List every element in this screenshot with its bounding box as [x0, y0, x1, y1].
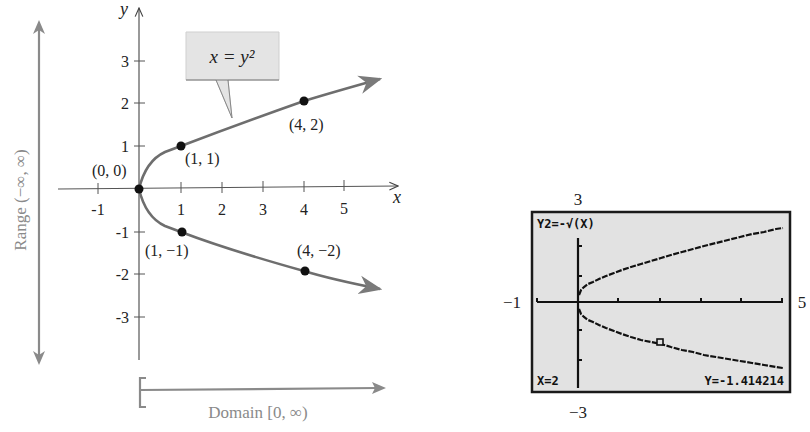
window-xmin-label: −1 [503, 293, 521, 312]
window-xmax-label: 5 [798, 293, 807, 312]
svg-text:-3: -3 [116, 309, 129, 326]
svg-text:-1: -1 [116, 224, 129, 241]
svg-text:2: 2 [121, 95, 129, 112]
svg-text:4: 4 [300, 201, 308, 218]
window-ymax-label: 3 [574, 190, 583, 209]
svg-text:(4, 2): (4, 2) [289, 116, 324, 134]
point-4-neg2 [301, 267, 310, 276]
domain-label: Domain [0, ∞) [208, 403, 307, 422]
x-axis [58, 186, 398, 189]
window-ymin-label: −3 [569, 403, 587, 422]
svg-text:(0, 0): (0, 0) [92, 162, 127, 180]
main-graph: Range (−∞, ∞) x y -1 1 2 3 4 5 [11, 0, 401, 422]
svg-text:(1, −1): (1, −1) [145, 242, 189, 260]
trace-cursor [657, 339, 663, 345]
calculator-graph: 3 −3 −1 5 Y2=-√(X) X=2 Y=-1.414214 [503, 190, 806, 422]
domain-arrow: Domain [0, ∞) [140, 378, 386, 422]
x-axis-label: x [392, 187, 401, 207]
svg-text:3: 3 [121, 53, 129, 70]
svg-text:(1, 1): (1, 1) [185, 150, 220, 168]
svg-text:-2: -2 [116, 266, 129, 283]
point-1-neg1 [178, 228, 187, 237]
svg-text:3: 3 [259, 201, 267, 218]
y-axis-label: y [118, 0, 128, 19]
svg-text:5: 5 [340, 200, 348, 217]
range-arrow: Range (−∞, ∞) [11, 20, 45, 365]
calc-x-readout: X=2 [537, 374, 559, 388]
bracket-icon [140, 378, 146, 407]
callout-equation: x = y² [209, 46, 255, 67]
equation-callout: x = y² [186, 32, 279, 118]
y-tick-labels: 3 2 1 -1 -2 -3 [116, 53, 129, 326]
point-0-0 [135, 185, 144, 194]
calc-equation: Y2=-√(X) [537, 217, 595, 231]
calc-y-readout: Y=-1.414214 [705, 374, 784, 388]
x-tick-labels: -1 1 2 3 4 5 [91, 200, 348, 218]
svg-text:1: 1 [121, 138, 129, 155]
svg-text:-1: -1 [91, 201, 104, 218]
svg-text:1: 1 [177, 201, 185, 218]
range-label: Range (−∞, ∞) [11, 149, 30, 250]
figure: Range (−∞, ∞) x y -1 1 2 3 4 5 [0, 0, 810, 432]
point-4-2 [300, 97, 309, 106]
curve-upper-branch [139, 79, 380, 189]
svg-text:(4, −2): (4, −2) [297, 242, 341, 260]
svg-text:2: 2 [218, 201, 226, 218]
